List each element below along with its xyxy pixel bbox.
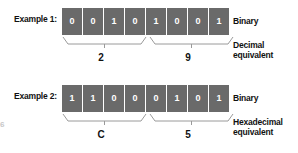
equivalent-row-label: Decimal equivalent xyxy=(233,40,295,60)
binary-bit-row: 1 1 0 0 0 1 0 1 xyxy=(62,85,229,112)
example-label: Example 2: xyxy=(14,91,62,101)
nibble-value: 2 xyxy=(79,52,123,63)
bit-cell: 0 xyxy=(167,8,187,35)
bit-cell: 1 xyxy=(209,85,229,112)
example-block: Example 1: 0 0 1 0 1 0 0 1 2 9 Binary xyxy=(0,0,298,76)
bit-cell: 0 xyxy=(188,8,208,35)
bit-cell: 1 xyxy=(62,85,82,112)
nibble-brace xyxy=(62,37,147,48)
bit-cell: 1 xyxy=(167,85,187,112)
nibble-value: C xyxy=(79,129,123,140)
equivalent-row-label: Hexadecimal equivalent xyxy=(233,117,295,137)
bit-cell: 0 xyxy=(125,85,145,112)
nibble-brace xyxy=(149,114,234,125)
nibble-brace xyxy=(62,114,147,125)
binary-conversion-diagram: Example 1: 0 0 1 0 1 0 0 1 2 9 Binary xyxy=(0,0,298,153)
nibble-value: 5 xyxy=(166,129,210,140)
nibble-brace xyxy=(149,37,234,48)
bit-cell: 0 xyxy=(104,85,124,112)
bit-cell: 0 xyxy=(125,8,145,35)
bit-cell: 1 xyxy=(146,8,166,35)
bit-cell: 0 xyxy=(188,85,208,112)
example-label: Example 1: xyxy=(14,14,62,24)
example-block: Example 2: 1 1 0 0 0 1 0 1 C 5 Binary xyxy=(0,77,298,153)
binary-row-label: Binary xyxy=(233,16,258,26)
bit-cell: 1 xyxy=(104,8,124,35)
bit-cell: 1 xyxy=(83,85,103,112)
nibble-value: 9 xyxy=(166,52,210,63)
bit-cell: 0 xyxy=(146,85,166,112)
binary-row-label: Binary xyxy=(233,93,258,103)
binary-bit-row: 0 0 1 0 1 0 0 1 xyxy=(62,8,229,35)
page-edge-artifact: 6 xyxy=(0,120,7,132)
bit-cell: 0 xyxy=(62,8,82,35)
bit-cell: 0 xyxy=(83,8,103,35)
bit-cell: 1 xyxy=(209,8,229,35)
